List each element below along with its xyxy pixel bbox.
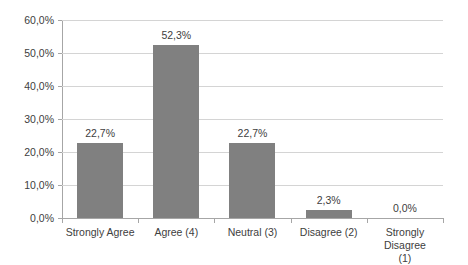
x-axis-category-line: Strongly Agree: [62, 226, 138, 239]
bar-slot: 0,0%: [367, 20, 443, 218]
bar-value-label: 22,7%: [85, 127, 115, 139]
plot-area: 22,7%52,3%22,7%2,3%0,0%: [62, 20, 443, 218]
bar-slot: 22,7%: [214, 20, 290, 218]
x-axis-category-label: Strongly Agree: [62, 226, 138, 239]
bar-value-label: 2,3%: [317, 194, 341, 206]
bar[interactable]: [77, 143, 123, 218]
x-axis-category-line: (1): [367, 252, 443, 265]
x-axis-category-line: Agree (4): [138, 226, 214, 239]
bar-slot: 52,3%: [138, 20, 214, 218]
x-axis-category-label: Neutral (3): [214, 226, 290, 239]
x-axis-tickmark: [367, 218, 368, 223]
y-axis-tick-label: 50,0%: [0, 48, 54, 59]
x-axis-tickmark: [443, 218, 444, 223]
bar-slot: 22,7%: [62, 20, 138, 218]
x-axis-tickmark: [138, 218, 139, 223]
y-axis-tickmark: [58, 185, 62, 186]
x-axis-labels: Strongly AgreeAgree (4)Neutral (3)Disagr…: [62, 226, 443, 260]
y-axis-tick-label: 0,0%: [0, 213, 54, 224]
x-axis-category-label: Disagree (2): [291, 226, 367, 239]
x-axis-category-label: Agree (4): [138, 226, 214, 239]
x-axis-category-line: Neutral (3): [214, 226, 290, 239]
bar-value-label: 22,7%: [238, 127, 268, 139]
y-axis-tickmark: [58, 20, 62, 21]
y-axis-tick-label: 20,0%: [0, 147, 54, 158]
y-axis-tick-label: 60,0%: [0, 15, 54, 26]
x-axis-tickmark: [291, 218, 292, 223]
x-axis-category-line: Strongly Disagree: [367, 226, 443, 252]
x-axis-tickmark: [62, 218, 63, 223]
bar-slot: 2,3%: [291, 20, 367, 218]
y-axis-tick-label: 10,0%: [0, 180, 54, 191]
x-axis-tickmark: [214, 218, 215, 223]
y-axis-tickmark: [58, 53, 62, 54]
y-axis-tickmark: [58, 119, 62, 120]
bar[interactable]: [306, 210, 352, 218]
y-axis-tickmark: [58, 86, 62, 87]
x-axis-category-line: Disagree (2): [291, 226, 367, 239]
bar-value-label: 0,0%: [393, 202, 417, 214]
y-axis-tick-label: 40,0%: [0, 81, 54, 92]
x-axis-category-label: Strongly Disagree(1): [367, 226, 443, 265]
bar-value-label: 52,3%: [161, 29, 191, 41]
y-axis-tickmark: [58, 152, 62, 153]
gridline: [62, 218, 443, 219]
y-axis-tick-label: 30,0%: [0, 114, 54, 125]
bar[interactable]: [153, 45, 199, 218]
bar[interactable]: [229, 143, 275, 218]
